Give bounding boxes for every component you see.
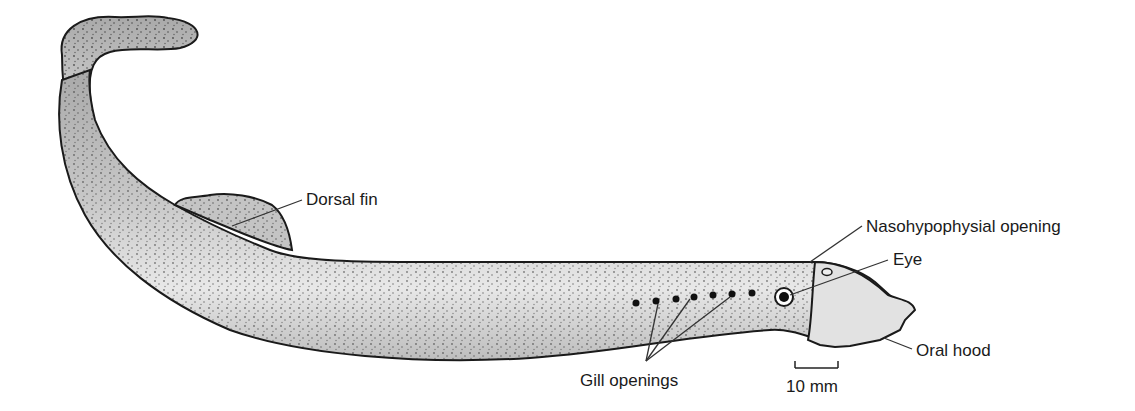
nasohypophysial-opening	[822, 269, 832, 276]
label-scale-bar: 10 mm	[786, 378, 838, 395]
lamprey-diagram: Dorsal fin Nasohypophysial opening Eye O…	[0, 0, 1135, 411]
label-eye: Eye	[893, 251, 922, 268]
scale-bar	[795, 361, 838, 368]
label-gill-openings: Gill openings	[580, 372, 678, 389]
label-dorsal-fin: Dorsal fin	[306, 191, 378, 208]
label-nasohypophysial-opening: Nasohypophysial opening	[866, 218, 1061, 235]
label-oral-hood: Oral hood	[916, 342, 991, 359]
